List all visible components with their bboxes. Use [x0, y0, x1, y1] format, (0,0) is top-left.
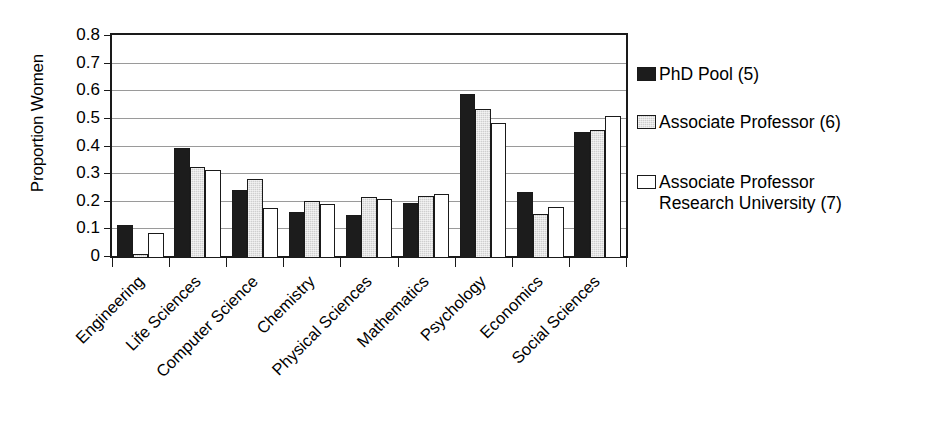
gray-filled-swatch	[637, 115, 656, 129]
bar	[574, 132, 590, 258]
y-axis-tick	[104, 35, 112, 36]
black-filled-swatch	[637, 67, 656, 81]
legend-item: Associate Professor (6)	[637, 112, 841, 133]
y-axis-tick	[104, 63, 112, 64]
y-axis-tick-label: 0.1	[50, 219, 100, 236]
bar	[460, 94, 476, 258]
bar	[205, 170, 221, 258]
bar	[148, 233, 164, 258]
bar	[361, 197, 377, 258]
bar-group	[403, 35, 450, 258]
bar	[247, 179, 263, 258]
bar	[491, 123, 507, 258]
legend-item: PhD Pool (5)	[637, 64, 759, 85]
y-axis-tick	[104, 201, 112, 202]
x-axis-tick	[340, 258, 341, 267]
bar	[434, 194, 450, 258]
bar	[475, 109, 491, 258]
y-axis-tick-label: 0.3	[50, 164, 100, 181]
bar	[289, 212, 305, 258]
y-axis-tick-label: 0.4	[50, 137, 100, 154]
y-axis-tick-label: 0.8	[50, 26, 100, 43]
y-axis-tick	[104, 256, 112, 257]
bar-chart-figure: Proportion Women 00.10.20.30.40.50.60.70…	[0, 0, 926, 427]
bar	[133, 254, 149, 258]
bar	[517, 192, 533, 258]
y-axis-title: Proportion Women	[28, 23, 48, 223]
bar	[304, 201, 320, 258]
bar	[590, 130, 606, 258]
bar	[174, 148, 190, 259]
y-axis-tick	[104, 118, 112, 119]
bar	[418, 196, 434, 258]
x-axis-tick	[455, 258, 456, 267]
bar-group	[460, 35, 507, 258]
bar	[346, 215, 362, 258]
bar	[403, 203, 419, 258]
white-filled-swatch	[637, 175, 656, 189]
bar	[533, 214, 549, 258]
bar	[263, 208, 279, 258]
y-axis-tick-label: 0.7	[50, 54, 100, 71]
bar-group	[517, 35, 564, 258]
x-axis-tick	[112, 258, 113, 267]
y-axis-tick-label: 0.2	[50, 192, 100, 209]
legend-item-label: PhD Pool (5)	[659, 64, 759, 85]
y-axis-tick-label: 0.6	[50, 81, 100, 98]
y-axis-tick-label: 0.5	[50, 109, 100, 126]
bar-group	[117, 35, 164, 258]
legend-item-label: Associate Professor (6)	[659, 112, 841, 133]
bar-group	[289, 35, 336, 258]
x-axis-tick	[626, 258, 627, 267]
bar	[117, 225, 133, 258]
bar-groups-container	[112, 35, 626, 258]
y-axis-tick	[104, 228, 112, 229]
x-axis-tick	[512, 258, 513, 267]
x-axis-tick	[169, 258, 170, 267]
bar-group	[232, 35, 279, 258]
bar	[548, 207, 564, 258]
legend-item: Associate Professor Research University …	[637, 172, 842, 214]
bar-group	[346, 35, 393, 258]
x-axis-tick	[569, 258, 570, 267]
y-axis-tick	[104, 90, 112, 91]
x-axis-tick	[398, 258, 399, 267]
bar	[605, 116, 621, 258]
bar	[190, 167, 206, 258]
bar-group	[574, 35, 621, 258]
bar	[320, 204, 336, 258]
y-axis-tick	[104, 173, 112, 174]
x-axis-tick	[283, 258, 284, 267]
y-axis-tick	[104, 146, 112, 147]
bar-group	[174, 35, 221, 258]
legend-item-label: Associate Professor Research University …	[659, 172, 842, 214]
y-axis-tick-label: 0	[50, 247, 100, 264]
x-axis-tick	[226, 258, 227, 267]
bar	[377, 199, 393, 258]
bar	[232, 190, 248, 258]
